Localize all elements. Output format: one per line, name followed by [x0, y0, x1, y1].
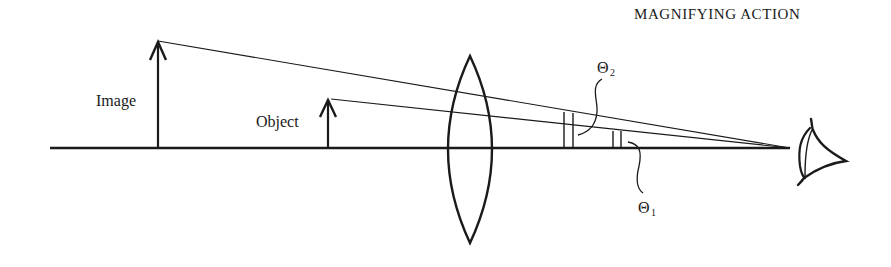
theta1-label: Θ 1: [638, 199, 656, 218]
svg-text:Θ: Θ: [597, 59, 609, 76]
magnifying-action-diagram: MAGNIFYING ACTION Image Object Θ 2 Θ 1: [0, 0, 891, 267]
svg-text:Θ: Θ: [638, 199, 650, 216]
image-ray: [158, 41, 790, 148]
svg-text:1: 1: [651, 207, 656, 218]
theta1-leader: [628, 142, 643, 193]
theta1-marker: [613, 131, 621, 148]
theta2-marker: [564, 112, 573, 148]
image-arrow: [150, 42, 166, 148]
diagram-title: MAGNIFYING ACTION: [634, 6, 800, 22]
object-arrow: [320, 100, 336, 148]
eye-icon: [798, 119, 846, 185]
object-label: Object: [256, 113, 299, 131]
svg-text:2: 2: [610, 67, 615, 78]
object-ray: [331, 99, 790, 148]
image-label: Image: [96, 92, 136, 110]
lens: [448, 56, 492, 243]
theta2-label: Θ 2: [597, 59, 615, 78]
